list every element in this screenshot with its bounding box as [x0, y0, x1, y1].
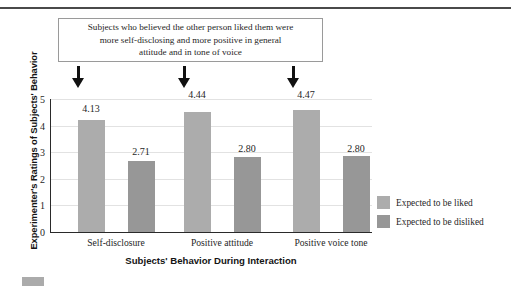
legend-swatch-liked	[377, 196, 390, 209]
y-tick-0: 0	[40, 227, 45, 238]
down-arrow-icon-self-disclosure	[72, 66, 85, 88]
bar-positive-voice-tone-disliked	[343, 156, 370, 232]
plot-area: 5 4 3 2 1 0	[50, 99, 372, 233]
bar-value-positive-voice-tone-liked: 4.47	[297, 89, 315, 100]
arrow-head	[178, 78, 190, 88]
legend-label-disliked: Expected to be disliked	[396, 217, 484, 227]
bar-value-self-disclosure-disliked: 2.71	[132, 146, 150, 157]
x-category-label-positive-attitude: Positive attitude	[191, 237, 253, 248]
y-tick-2: 2	[40, 173, 45, 184]
arrow-head	[72, 78, 84, 88]
callout-box: Subjects who believed the other person l…	[58, 18, 323, 62]
x-axis-title: Subjects' Behavior During Interaction	[50, 255, 372, 266]
legend-item-liked: Expected to be liked	[377, 193, 484, 212]
bar-value-positive-attitude-disliked: 2.80	[238, 143, 256, 154]
page-top-rule	[0, 7, 511, 9]
callout-line-1: Subjects who believed the other person l…	[88, 21, 294, 33]
bar-positive-attitude-liked	[184, 112, 211, 232]
legend: Expected to be liked Expected to be disl…	[377, 193, 484, 231]
x-category-label-positive-voice-tone: Positive voice tone	[294, 237, 367, 248]
y-tick-1: 1	[40, 200, 45, 211]
bar-self-disclosure-liked	[78, 120, 105, 233]
bar-value-positive-voice-tone-disliked: 2.80	[347, 143, 365, 154]
callout-line-3: attitude and in tone of voice	[139, 46, 242, 58]
arrow-head	[287, 78, 299, 88]
bar-positive-attitude-disliked	[234, 157, 261, 232]
y-tick-4: 4	[40, 120, 45, 131]
down-arrow-icon-positive-attitude	[178, 66, 191, 88]
bar-value-self-disclosure-liked: 4.13	[82, 103, 100, 114]
callout-line-2: more self-disclosing and more positive i…	[100, 34, 282, 46]
x-category-label-self-disclosure: Self-disclosure	[87, 237, 145, 248]
legend-swatch-disliked	[377, 215, 390, 228]
y-axis-title: Experimenter's Ratings of Subjects' Beha…	[28, 46, 39, 256]
legend-label-liked: Expected to be liked	[396, 198, 473, 208]
bar-value-positive-attitude-liked: 4.44	[188, 89, 206, 100]
gridline-5	[51, 99, 372, 100]
y-tick-3: 3	[40, 147, 45, 158]
bar-positive-voice-tone-liked	[293, 110, 320, 232]
y-tick-5: 5	[40, 94, 45, 105]
bar-self-disclosure-disliked	[128, 161, 155, 232]
legend-item-disliked: Expected to be disliked	[377, 212, 484, 231]
y-axis-line	[50, 99, 51, 233]
page-artifact-mark	[22, 277, 44, 286]
down-arrow-icon-positive-voice-tone	[287, 66, 300, 88]
